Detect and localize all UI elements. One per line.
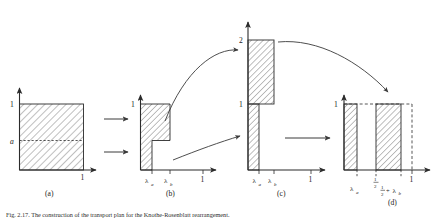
arrow-b-to-c-upper xyxy=(165,50,238,121)
panel-c-ytick-1: 1 xyxy=(239,100,243,109)
panel-a-xtick-1: 1 xyxy=(81,173,85,182)
panel-c-lower-column xyxy=(248,104,259,170)
panel-c-ytick-2: 2 xyxy=(239,36,243,45)
panel-a-label: (a) xyxy=(45,189,54,198)
svg-text:1: 1 xyxy=(381,185,384,190)
panel-d-label: (d) xyxy=(388,198,397,207)
panel-c-label: (c) xyxy=(277,189,286,198)
panel-d-xtick-half-plus-lb: 1 2 + λ b xyxy=(381,185,402,197)
panel-a: 1 a 1 xyxy=(10,88,96,182)
svg-text:2: 2 xyxy=(381,192,384,197)
panel-b-xtick-la-sub: a xyxy=(151,182,154,187)
panel-b-xtick-1: 1 xyxy=(201,175,205,184)
panel-c-xtick-lb: λ xyxy=(268,177,272,185)
panel-b-xtick-la: λ xyxy=(145,177,149,185)
panel-b-region xyxy=(141,104,171,170)
panel-d-xtick-la: λ xyxy=(350,185,354,193)
panel-d-xtick-la-sub: a xyxy=(356,190,359,195)
svg-text:+: + xyxy=(386,187,390,194)
arrow-c-to-d-curved xyxy=(278,42,388,92)
figure-canvas: 1 a 1 (a) 1 λ a λ b 1 (b) 2 xyxy=(0,0,438,221)
panel-c-xtick-la: λ xyxy=(253,177,257,185)
panel-c-xtick-la-sub: a xyxy=(259,182,262,187)
panel-d-ytick-1: 1 xyxy=(334,100,338,109)
panel-a-ytick-a: a xyxy=(10,137,14,146)
panel-a-ytick-1: 1 xyxy=(10,100,14,109)
panel-c-upper-block xyxy=(248,40,274,104)
panel-d-xtick-1: 1 xyxy=(410,175,414,184)
panel-b-label: (b) xyxy=(166,189,175,198)
figure-caption: Fig. 2.17. The construction of the trans… xyxy=(6,211,436,219)
panel-d: 1 λ a 1 2 1 2 + λ b 1 xyxy=(334,95,430,197)
panel-b-xtick-lb-sub: b xyxy=(170,182,173,187)
arrow-b-to-c-lower xyxy=(173,136,240,160)
panel-c-xtick-lb-sub: b xyxy=(274,182,277,187)
diagram-svg: 1 a 1 (a) 1 λ a λ b 1 (b) 2 xyxy=(0,0,438,221)
panel-b-xtick-lb: λ xyxy=(164,177,168,185)
panel-d-bar-right xyxy=(376,104,401,170)
panel-c-xtick-1: 1 xyxy=(309,175,313,184)
svg-text:b: b xyxy=(399,191,402,196)
panel-b-ytick-1: 1 xyxy=(131,100,135,109)
panel-d-xtick-half: 1 2 xyxy=(374,177,379,189)
panel-d-bar-left xyxy=(344,104,357,170)
panel-b: 1 λ a λ b 1 xyxy=(131,95,216,187)
svg-text:λ: λ xyxy=(393,187,397,195)
panel-c: 2 1 λ a λ b 1 xyxy=(239,22,325,187)
svg-text:1: 1 xyxy=(374,177,377,182)
svg-text:2: 2 xyxy=(374,184,377,189)
panel-a-region xyxy=(20,104,84,170)
